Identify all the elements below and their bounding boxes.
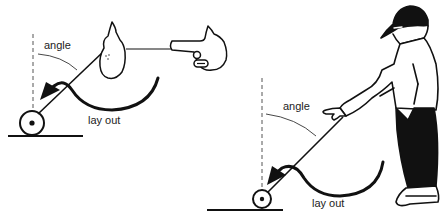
right-layout-curve [275,162,383,196]
right-panel: angle lay out [207,6,439,210]
left-angle-arc [38,54,77,70]
thumbs-up-hand-icon [100,22,125,78]
right-roller-hub [260,197,264,201]
left-angle-label: angle [44,39,71,51]
illustration-canvas: angle lay out an [0,0,446,217]
left-layout-label: lay out [88,114,120,126]
right-layout-label: lay out [312,197,344,209]
left-layout-curve [47,78,158,110]
person-figure [323,6,439,206]
left-panel: angle lay out [8,22,227,136]
right-angle-arc [266,114,316,136]
diagram-svg: angle lay out an [0,0,446,217]
right-angle-label: angle [283,100,310,112]
person-pants [396,108,438,188]
person-torso [340,38,438,116]
pointing-hand-icon [171,26,227,70]
left-roller-hub [29,120,34,125]
